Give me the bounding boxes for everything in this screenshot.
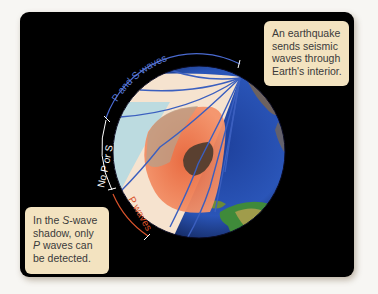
epicenter-callout-line-2: sends seismic (272, 40, 343, 53)
shadow-callout-line-2: shadow, only (33, 227, 103, 240)
no-p-or-s-arc: No P or S (95, 120, 116, 190)
epicenter-callout-line-3: waves through (272, 52, 343, 65)
shadow-text-suffix: -wave (69, 214, 97, 226)
shadow-text-prefix: In the (33, 214, 62, 226)
no-p-or-s-label: No P or S (95, 144, 115, 189)
diagram-card: P and S waves No P or S P waves An earth… (20, 12, 354, 277)
shadow-callout-line-3: P waves can (33, 239, 103, 252)
epicenter-callout-line-4: Earth's interior. (272, 65, 343, 78)
epicenter-callout: An earthquake sends seismic waves throug… (264, 21, 349, 86)
epicenter-callout-line-1: An earthquake (272, 27, 343, 40)
shadow-text-p: P (33, 239, 40, 251)
shadow-text-line3-suffix: waves can (40, 239, 93, 251)
shadow-callout-line-4: be detected. (33, 252, 103, 265)
shadow-callout-line-1: In the S-wave (33, 214, 103, 227)
shadow-zone-callout: In the S-wave shadow, only P waves can b… (25, 207, 109, 274)
